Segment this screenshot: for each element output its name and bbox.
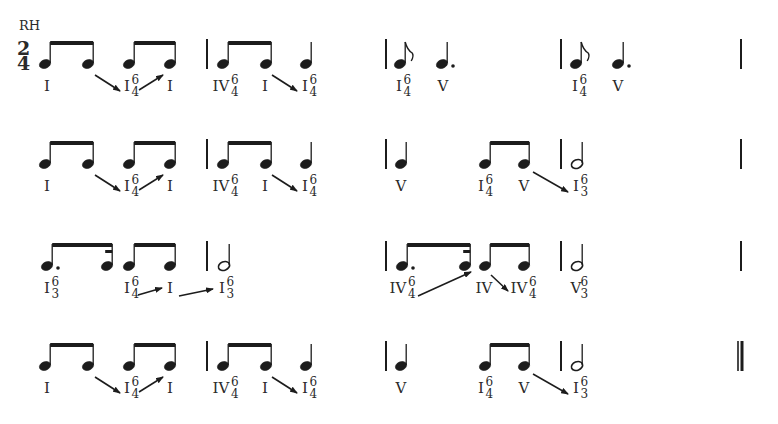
figured-bass-lower: 3 (581, 287, 589, 301)
augmentation-dot (411, 266, 415, 270)
figured-bass-lower: 4 (310, 387, 318, 401)
right-hand-label: RH (19, 18, 40, 33)
progression-arrow (179, 289, 213, 296)
beam (407, 243, 470, 247)
figured-bass-lower: 4 (404, 85, 412, 99)
roman-numeral-label: I (124, 379, 130, 397)
notation-row-2: II64IIV64II64VI64VI63 (38, 139, 741, 199)
progression-arrow (95, 175, 120, 191)
roman-numeral-label: I (44, 177, 50, 195)
roman-numeral-label: I (44, 279, 50, 297)
roman-numeral-label: V (612, 77, 625, 95)
roman-numeral-label: I (219, 279, 225, 297)
progression-arrow (491, 275, 508, 291)
rhythm-exercise-score: RH 2 4 II64IIV64II64I64VI64VII64IIV64II6… (0, 0, 778, 424)
figured-bass-lower: 4 (231, 185, 239, 199)
progression-arrow (272, 75, 297, 91)
roman-numeral-label: I (262, 77, 268, 95)
figured-bass-lower: 4 (132, 85, 140, 99)
roman-numeral-label: V (518, 177, 531, 195)
roman-numeral-label: I (478, 379, 484, 397)
roman-numeral-label: I (573, 379, 579, 397)
beam (134, 141, 175, 145)
roman-numeral-label: I (167, 77, 173, 95)
figured-bass-lower: 4 (132, 287, 140, 301)
augmentation-dot (56, 266, 60, 270)
figured-bass-lower: 3 (52, 287, 60, 301)
beam (228, 141, 271, 145)
roman-numeral-label: V (395, 379, 408, 397)
beam (52, 243, 112, 247)
sixteenth-partial-beam (105, 250, 112, 253)
roman-numeral-label: I (573, 177, 579, 195)
figured-bass-lower: 4 (580, 85, 588, 99)
roman-numeral-label: I (478, 177, 484, 195)
figured-bass-lower: 4 (408, 287, 416, 301)
progression-arrow (272, 175, 297, 191)
eighth-flag (581, 42, 589, 61)
progression-arrow (139, 175, 163, 190)
roman-numeral-label: V (518, 379, 531, 397)
roman-numeral-label: IV (213, 379, 231, 397)
roman-numeral-label: I (262, 379, 268, 397)
progression-arrow (139, 377, 163, 392)
roman-numeral-label: I (396, 77, 402, 95)
roman-numeral-label: I (302, 379, 308, 397)
roman-numeral-label: I (572, 77, 578, 95)
figured-bass-lower: 4 (486, 185, 494, 199)
figured-bass-lower: 4 (529, 287, 537, 301)
roman-numeral-label: I (124, 177, 130, 195)
beam (50, 141, 93, 145)
beam (490, 343, 529, 347)
progression-arrow (139, 75, 163, 90)
roman-numeral-label: I (167, 279, 173, 297)
notation-row-4: II64IIV64II64VI64VI63 (38, 341, 742, 401)
progression-arrow (533, 374, 568, 394)
roman-numeral-label: V (395, 177, 408, 195)
figured-bass-lower: 4 (310, 85, 318, 99)
notation-row-1: II64IIV64II64I64VI64V (38, 39, 741, 99)
roman-numeral-label: IV (390, 279, 408, 297)
figured-bass-lower: 4 (231, 387, 239, 401)
beam (50, 343, 93, 347)
roman-numeral-label: I (44, 77, 50, 95)
augmentation-dot (451, 64, 455, 68)
progression-arrow (418, 272, 471, 296)
figured-bass-lower: 3 (581, 387, 589, 401)
progression-arrow (533, 172, 568, 192)
sixteenth-partial-beam (463, 250, 470, 253)
roman-numeral-label: IV (476, 279, 494, 297)
figured-bass-lower: 4 (486, 387, 494, 401)
roman-numeral-label: V (437, 77, 450, 95)
roman-numeral-label: I (167, 379, 173, 397)
progression-arrow (95, 75, 120, 91)
notation-row-3: I63I64II63IV64IVIV64V63 (40, 241, 741, 301)
progression-arrow (272, 377, 297, 393)
roman-numeral-label: I (124, 77, 130, 95)
roman-numeral-label: I (302, 77, 308, 95)
beam (50, 41, 93, 45)
augmentation-dot (627, 64, 631, 68)
beam (490, 243, 529, 247)
notation-rows: II64IIV64II64I64VI64VII64IIV64II64VI64VI… (38, 39, 742, 401)
roman-numeral-label: I (302, 177, 308, 195)
beam (134, 41, 175, 45)
roman-numeral-label: I (167, 177, 173, 195)
roman-numeral-label: I (44, 379, 50, 397)
beam (134, 243, 175, 247)
figured-bass-lower: 3 (581, 185, 589, 199)
figured-bass-lower: 4 (310, 185, 318, 199)
figured-bass-lower: 4 (132, 387, 140, 401)
figured-bass-lower: 4 (132, 185, 140, 199)
beam (228, 41, 271, 45)
beam (134, 343, 175, 347)
roman-numeral-label: IV (511, 279, 529, 297)
roman-numeral-label: IV (213, 177, 231, 195)
roman-numeral-label: IV (213, 77, 231, 95)
eighth-flag (405, 42, 413, 61)
figured-bass-lower: 4 (231, 85, 239, 99)
progression-arrow (138, 288, 162, 295)
roman-numeral-label: I (124, 279, 130, 297)
beam (490, 141, 529, 145)
roman-numeral-label: I (262, 177, 268, 195)
